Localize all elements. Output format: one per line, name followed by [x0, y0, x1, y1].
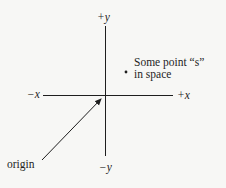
- x-positive-label: +x: [177, 89, 190, 101]
- y-positive-label: +y: [97, 11, 110, 23]
- point-s-dot: [125, 71, 128, 74]
- point-s-label-line1: Some point “s”: [134, 56, 204, 68]
- origin-label: origin: [7, 158, 34, 170]
- point-s-label-line2: in space: [134, 68, 171, 80]
- x-negative-label: −x: [27, 88, 40, 100]
- origin-arrow: [42, 99, 101, 160]
- y-negative-label: −y: [99, 161, 112, 173]
